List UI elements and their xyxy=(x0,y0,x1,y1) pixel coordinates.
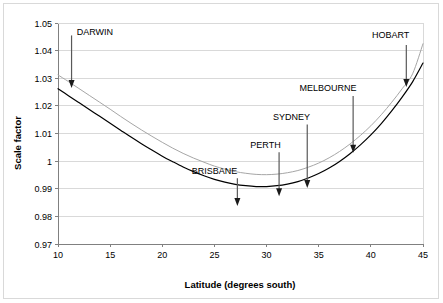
annotation-darwin: DARWIN xyxy=(69,27,114,87)
axis-tick-labels: 10152025303540451.051.041.031.021.0110.9… xyxy=(34,19,428,261)
chart-container: DARWINBRISBANEPERTHSYDNEYMELBOURNEHOBART… xyxy=(0,0,443,303)
x-tick-label: 15 xyxy=(105,250,115,260)
y-tick-label: 0.97 xyxy=(34,240,52,250)
x-tick-label: 35 xyxy=(314,250,324,260)
x-tick-label: 45 xyxy=(418,250,428,260)
annotation-label-darwin: DARWIN xyxy=(77,27,113,37)
annotation-label-hobart: HOBART xyxy=(372,30,410,40)
y-tick-label: 0.99 xyxy=(34,184,52,194)
annotation-perth: PERTH xyxy=(250,140,282,196)
y-tick-label: 1.04 xyxy=(34,46,52,56)
y-tick-label: 0.98 xyxy=(34,212,52,222)
x-axis-title: Latitude (degrees south) xyxy=(185,279,296,290)
x-tick-label: 30 xyxy=(262,250,272,260)
annotation-label-melbourne: MELBOURNE xyxy=(300,83,357,93)
arrow-head-darwin xyxy=(69,80,75,88)
annotation-label-sydney: SYDNEY xyxy=(273,112,310,122)
arrow-head-brisbane xyxy=(234,198,240,206)
y-tick-label: 1.03 xyxy=(34,74,52,84)
data-series xyxy=(58,44,423,187)
city-annotations: DARWINBRISBANEPERTHSYDNEYMELBOURNEHOBART xyxy=(69,27,410,205)
plot-axes xyxy=(55,23,423,247)
arrow-head-perth xyxy=(276,188,282,196)
series-line-lower-curve xyxy=(58,63,423,187)
x-tick-label: 20 xyxy=(157,250,167,260)
annotation-label-perth: PERTH xyxy=(250,140,280,150)
y-tick-label: 1 xyxy=(47,157,52,167)
x-tick-label: 10 xyxy=(53,250,63,260)
series-line-upper-curve xyxy=(58,44,423,175)
annotation-label-brisbane: BRISBANE xyxy=(192,166,238,176)
annotation-brisbane: BRISBANE xyxy=(192,166,241,206)
y-tick-label: 1.05 xyxy=(34,19,52,29)
x-tick-label: 40 xyxy=(366,250,376,260)
y-tick-label: 1.02 xyxy=(34,101,52,111)
scale-factor-vs-latitude-chart: DARWINBRISBANEPERTHSYDNEYMELBOURNEHOBART… xyxy=(0,0,443,303)
x-tick-label: 25 xyxy=(209,250,219,260)
y-tick-label: 1.01 xyxy=(34,129,52,139)
y-axis-title: Scale factor xyxy=(12,116,23,170)
arrow-head-sydney xyxy=(304,180,310,188)
gridlines xyxy=(58,23,423,244)
